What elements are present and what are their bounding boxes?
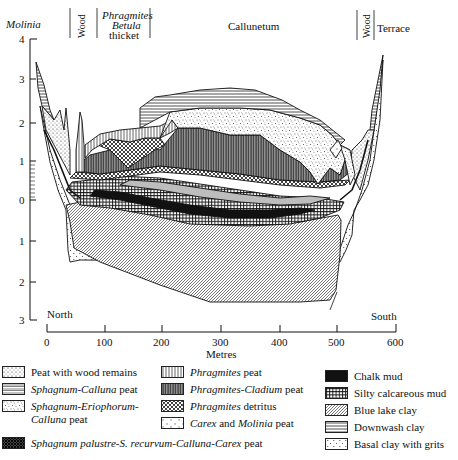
legend-label-italic: Carex [190,417,216,429]
x-tick-label: 600 [387,336,404,348]
grid-swatch-icon [325,387,348,399]
legend-item-blue-lake-clay: Blue lake clay [325,404,417,417]
y-tick-label: 3 [19,314,25,326]
x-tick-label: 500 [328,336,345,348]
zone-thicket-label: thicket [109,29,139,41]
legend-label: Chalk mud [354,370,403,383]
legend-label: peat [242,437,263,449]
legend-label-italic: Calluna [31,413,66,425]
legend-item-basal-clay: Basal clay with grits [325,438,444,451]
layer-phragmites-left-column [76,112,84,172]
legend-label: peat [241,366,262,378]
legend-item-wood-peat: Peat with wood remains [2,366,137,379]
legend-item-phragmites-peat: Phragmites peat [161,366,262,379]
double-lines-swatch-icon [2,383,25,395]
legend-item-phragmites-cladium: Phragmites-Cladium peat [161,383,303,396]
y-tick-label: 4 [19,33,25,45]
legend-label: detritus [241,400,277,412]
legend-label-italic: Sphagnum-Calluna [31,383,117,395]
y-tick-label: 1 [19,235,25,247]
legend-label: Basal clay with grits [354,438,444,451]
legend-label: peat [282,383,303,395]
legend-item-downwash-clay: Downwash clay [325,421,425,434]
legend-label: Silty calcareous mud [354,387,446,400]
legend-item-chalk-mud: Chalk mud [325,370,403,383]
dense-vertical-swatch-icon [161,383,184,395]
legend-label: Peat with wood remains [31,366,137,379]
c-letters-swatch-icon [161,417,184,429]
legend-label: peat [117,383,138,395]
dark-crosshatch-swatch-icon [2,437,25,449]
legend-item-silty-mud: Silty calcareous mud [325,387,446,400]
legend-label: Blue lake clay [354,404,417,417]
crosshatch-swatch-icon [161,400,184,412]
legend-label-italic: Sphagnum palustre-S. recurvum-Calluna-Ca… [31,437,242,449]
y-tick-label: 2 [19,117,25,129]
solid-black-swatch-icon [325,370,348,382]
dotted-grid-swatch-icon [2,366,25,378]
x-tick-label: 0 [44,336,50,348]
legend-label-italic: Sphagnum-Eriophorum- [31,400,139,412]
legend-label-italic: Molinia [238,417,273,429]
zone-wood-label-right: Wood [361,14,372,38]
y-tick-label: 1 [19,155,25,167]
zone-wood-label-left: Wood [76,14,87,38]
triangle-dots-swatch-icon [325,438,348,450]
legend-item-sphagnum-eriophorum: Sphagnum-Eriophorum-Calluna peat [2,400,139,426]
legend-item-phragmites-detritus: Phragmites detritus [161,400,276,413]
legend-item-sphagnum-palustre: Sphagnum palustre-S. recurvum-Calluna-Ca… [2,437,263,450]
zone-callunetum-label: Callunetum [228,20,280,32]
legend-label-italic: Phragmites [190,400,241,412]
stipple-swatch-icon [2,400,25,412]
vegetation-zone-header: Molinia Wood Phragmites Betula thicket C… [5,8,410,41]
legend-item-sphagnum-calluna: Sphagnum-Calluna peat [2,383,138,396]
legend-label: Downwash clay [354,421,425,434]
x-tick-label: 300 [212,336,229,348]
legend-label: peat [66,413,87,425]
y-axis: 4 3 2 1 0 1 2 3 [19,33,37,326]
legend-label: and [216,417,237,429]
legend-label-italic: Phragmites [190,366,241,378]
x-axis: 0 100 200 300 400 500 600 Metres North S… [44,308,404,360]
vertical-lines-swatch-icon [161,366,184,378]
north-label: North [47,308,73,320]
x-axis-title: Metres [206,348,237,360]
x-tick-label: 100 [96,336,113,348]
y-tick-label: 0 [19,194,25,206]
legend-label: peat [273,417,294,429]
legend-label-italic: Phragmites-Cladium [190,383,282,395]
south-label: South [371,310,397,322]
diagonal-hatch-swatch-icon [325,404,348,416]
stratigraphy [36,55,383,310]
y-tick-label: 2 [19,276,25,288]
x-tick-label: 400 [271,336,288,348]
x-tick-label: 200 [153,336,170,348]
legend-item-carex-molinia: Carex and Molinia peat [161,417,294,430]
horizontal-lines-swatch-icon [325,421,348,433]
zone-terrace-label: Terrace [377,22,410,34]
zone-molinia-label: Molinia [5,18,41,30]
y-tick-label: 3 [19,73,25,85]
